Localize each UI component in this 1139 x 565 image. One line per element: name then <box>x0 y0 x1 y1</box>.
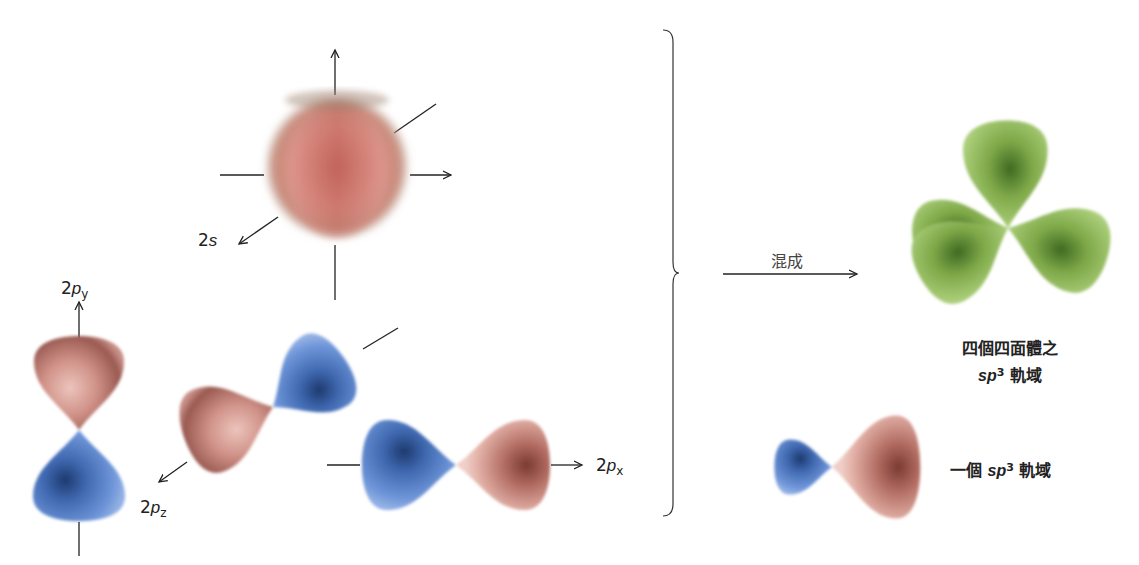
single-sp3-orbital <box>774 415 920 518</box>
orbital-2py <box>33 302 125 556</box>
orbital-2px <box>327 420 582 510</box>
label-2s: 2s <box>198 232 217 249</box>
single-prefix: 一個 <box>950 461 988 480</box>
tetrahedral-sp3-orbitals <box>900 119 1120 314</box>
hybridization-label: 混成 <box>771 248 803 272</box>
label-2s-number: 2 <box>198 230 209 250</box>
label-2px-letter: p <box>607 456 616 475</box>
pz-axis-arrow-icon <box>159 462 187 482</box>
px-negative-lobe <box>362 420 456 510</box>
tetrahedral-caption-line2: sp3 軌域 <box>940 361 1080 388</box>
label-2py-subscript: y <box>81 287 88 301</box>
label-2s-letter: s <box>209 231 218 250</box>
sp3-small-lobe <box>774 439 832 494</box>
sp-text: sp <box>988 462 1007 479</box>
single-sp3-caption: 一個 sp3 軌域 <box>950 456 1051 483</box>
py-negative-lobe <box>33 430 125 521</box>
sp-text: sp <box>978 367 997 384</box>
pz-positive-lobe <box>170 366 288 480</box>
px-positive-lobe <box>456 420 550 510</box>
z-axis-arrow-icon <box>239 217 278 244</box>
grouping-brace <box>663 30 679 516</box>
axis-line <box>394 104 436 133</box>
sp3-large-lobe <box>832 415 920 518</box>
orbital-word: 軌域 <box>1004 366 1042 385</box>
label-2px-subscript: x <box>616 464 623 478</box>
label-2pz: 2pz <box>140 499 167 519</box>
axis-line <box>363 328 398 349</box>
tetrahedral-caption-line1: 四個四面體之 <box>940 337 1080 361</box>
orbital-word: 軌域 <box>1014 461 1052 480</box>
sp-superscript: 3 <box>1006 461 1014 474</box>
pz-negative-lobe <box>249 324 367 441</box>
label-2py: 2py <box>61 280 88 300</box>
tetrahedral-sp3-caption: 四個四面體之 sp3 軌域 <box>940 337 1080 388</box>
label-2px-number: 2 <box>596 455 607 475</box>
label-2px: 2px <box>596 457 623 477</box>
label-2py-number: 2 <box>61 278 72 298</box>
label-2pz-letter: p <box>151 498 160 517</box>
label-2py-letter: p <box>72 279 81 298</box>
label-2pz-number: 2 <box>140 497 151 517</box>
py-positive-lobe <box>34 336 124 430</box>
orbital-2s <box>220 50 451 300</box>
label-2pz-subscript: z <box>160 506 166 520</box>
